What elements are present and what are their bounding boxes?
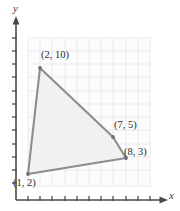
vertex-label-1-2: (1, 2) xyxy=(13,178,36,189)
vertex-label-2-10: (2, 10) xyxy=(41,50,69,61)
vertex-marker-1-2 xyxy=(26,172,30,176)
coordinate-plane-figure: y x (2, 10) (7, 5) (8, 3) (1, 2) xyxy=(0,0,180,211)
vertex-label-7-5: (7, 5) xyxy=(114,120,137,131)
vertex-marker-7-5 xyxy=(111,135,115,139)
vertex-marker-2-10 xyxy=(38,66,42,70)
y-axis-label: y xyxy=(13,3,18,14)
x-axis-arrowhead xyxy=(160,197,169,204)
x-axis-label: x xyxy=(169,190,174,201)
y-axis-arrowhead xyxy=(13,16,20,25)
vertex-label-8-3: (8, 3) xyxy=(124,147,147,158)
